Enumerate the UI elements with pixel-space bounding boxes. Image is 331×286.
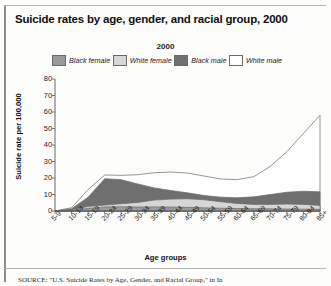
legend-item-white-male[interactable]: White male xyxy=(229,55,282,66)
page-title: Suicide rates by age, gender, and racial… xyxy=(15,13,288,25)
y-axis-title: Suicide rate per 100,000 xyxy=(14,82,23,192)
chart-legend: Black female White female Black male Whi… xyxy=(52,55,282,66)
x-axis-ticks: 5-910-1415-1920-2425-2930-3435-3940-4445… xyxy=(0,214,331,254)
legend-swatch-black-female xyxy=(52,55,66,66)
y-tick-label: 30 xyxy=(36,157,52,166)
legend-label-black-female: Black female xyxy=(69,56,110,65)
plot-area: Suicide rate per 100,000 010203040506070… xyxy=(0,70,331,220)
top-divider xyxy=(4,5,326,6)
y-tick-label: 60 xyxy=(36,107,52,116)
figure-page: Suicide rates by age, gender, and racial… xyxy=(0,0,331,286)
legend-label-black-male: Black male xyxy=(191,56,226,65)
y-tick-label: 10 xyxy=(36,190,52,199)
y-tick-label: 20 xyxy=(36,173,52,182)
y-tick-label: 50 xyxy=(36,124,52,133)
legend-swatch-white-male xyxy=(229,55,243,66)
y-tick-label: 40 xyxy=(36,140,52,149)
legend-item-black-male[interactable]: Black male xyxy=(174,55,226,66)
legend-label-white-female: White female xyxy=(130,56,172,65)
y-axis-ticks: 01020304050607080 xyxy=(36,70,52,212)
y-tick-label: 80 xyxy=(36,74,52,83)
y-tick-label: 70 xyxy=(36,91,52,100)
source-note: SOURCE: "U.S. Suicide Rates by Age, Gend… xyxy=(18,276,323,284)
bottom-divider xyxy=(4,268,326,269)
legend-item-black-female[interactable]: Black female xyxy=(52,55,110,66)
x-axis-title: Age groups xyxy=(0,253,331,262)
legend-swatch-white-female xyxy=(113,55,127,66)
chart-title: 2000 xyxy=(0,42,331,51)
legend-item-white-female[interactable]: White female xyxy=(113,55,172,66)
legend-swatch-black-male xyxy=(174,55,188,66)
legend-label-white-male: White male xyxy=(246,56,282,65)
